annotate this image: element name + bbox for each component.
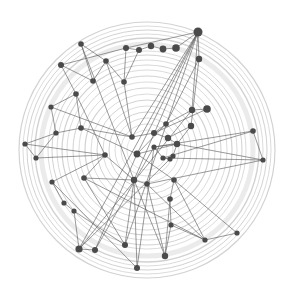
graph-node bbox=[78, 125, 84, 131]
graph-node bbox=[174, 141, 180, 147]
graph-node bbox=[48, 104, 53, 109]
graph-node bbox=[202, 237, 207, 242]
graph-node bbox=[194, 28, 203, 37]
graph-edge bbox=[79, 156, 173, 249]
graph-node bbox=[121, 79, 127, 85]
graph-node bbox=[151, 144, 156, 149]
graph-node bbox=[196, 56, 202, 62]
graph-node bbox=[123, 45, 129, 51]
graph-node bbox=[160, 46, 167, 53]
graph-edge bbox=[170, 180, 174, 199]
graph-node bbox=[102, 152, 108, 158]
graph-node bbox=[49, 179, 54, 184]
graph-node bbox=[165, 135, 171, 141]
network-graph bbox=[0, 0, 287, 288]
graph-node bbox=[203, 105, 211, 113]
graph-node bbox=[163, 121, 169, 127]
graph-node bbox=[131, 177, 137, 183]
graph-node bbox=[33, 155, 38, 160]
graph-edge bbox=[177, 144, 263, 160]
graph-node bbox=[171, 177, 177, 183]
graph-node bbox=[189, 107, 195, 113]
graph-node bbox=[58, 62, 64, 68]
graph-node bbox=[90, 78, 96, 84]
graph-node bbox=[22, 141, 27, 146]
graph-node bbox=[172, 44, 180, 52]
graph-edge bbox=[36, 155, 105, 158]
graph-node bbox=[250, 128, 256, 134]
graph-edge bbox=[147, 160, 263, 184]
graph-node bbox=[151, 130, 157, 136]
graph-node bbox=[188, 123, 194, 129]
graph-edge bbox=[125, 32, 198, 245]
graph-edge bbox=[61, 48, 126, 65]
graph-edge bbox=[170, 199, 171, 225]
graph-node bbox=[136, 47, 142, 53]
graph-node bbox=[129, 134, 135, 140]
graph-node bbox=[170, 153, 175, 158]
graph-edge bbox=[51, 107, 56, 133]
graph-node bbox=[75, 245, 82, 252]
graph-edge bbox=[147, 184, 205, 240]
graph-node bbox=[73, 91, 79, 97]
graph-node bbox=[78, 41, 84, 47]
graph-node bbox=[260, 157, 265, 162]
graph-node bbox=[144, 181, 150, 187]
graph-node bbox=[103, 58, 109, 64]
graph-node bbox=[167, 196, 173, 202]
graph-node bbox=[162, 253, 168, 259]
graph-node bbox=[168, 222, 173, 227]
graph-node bbox=[53, 130, 58, 135]
graph-edge bbox=[25, 144, 105, 155]
graph-node bbox=[234, 230, 239, 235]
graph-node bbox=[81, 175, 87, 181]
graph-node bbox=[134, 151, 141, 158]
graph-node bbox=[134, 265, 140, 271]
graph-edge bbox=[81, 128, 132, 137]
graph-node bbox=[148, 43, 154, 49]
graph-node bbox=[122, 242, 128, 248]
graph-edge bbox=[137, 147, 154, 268]
graph-node bbox=[61, 200, 66, 205]
graph-node bbox=[71, 208, 76, 213]
graph-node bbox=[92, 247, 98, 253]
graph-node bbox=[160, 155, 165, 160]
